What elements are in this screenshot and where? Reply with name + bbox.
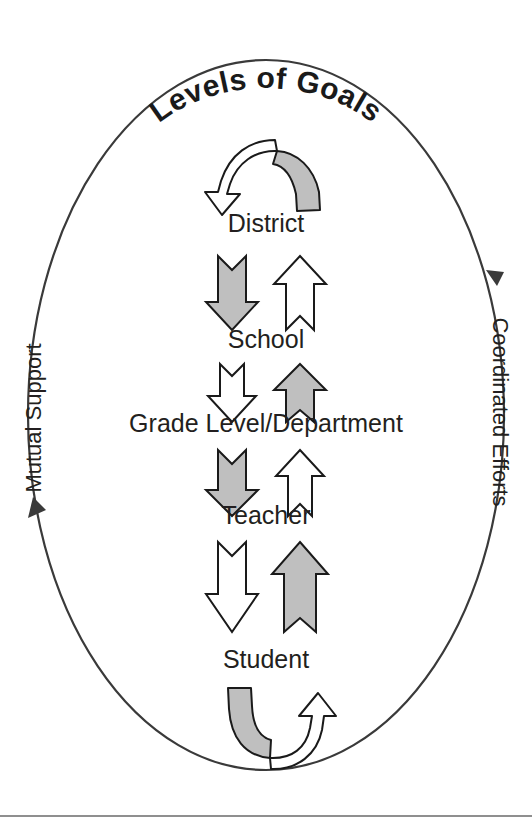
diagram-title-path: Levels of Goals	[143, 61, 388, 128]
left-side-label: Mutual Support	[21, 343, 46, 492]
arrow-pair-district-school	[206, 256, 326, 330]
district-self-loop-icon	[205, 140, 320, 215]
down-arrow-gray	[206, 256, 258, 330]
up-arrow-white	[274, 256, 326, 330]
levels-of-goals-diagram: Mutual Support Coordinated Efforts Level…	[0, 0, 532, 824]
level-label-school: School	[228, 325, 304, 353]
arrow-pair-teacher-student	[206, 542, 328, 632]
diagram-title: Levels of Goals	[143, 61, 388, 128]
figure-canvas: Mutual Support Coordinated Efforts Level…	[0, 0, 532, 824]
coordinated-efforts-arrowhead-icon	[486, 270, 504, 286]
right-side-label: Coordinated Efforts	[488, 317, 513, 506]
level-label-student: Student	[223, 645, 309, 673]
level-label-teacher: Teacher	[222, 501, 311, 529]
student-self-loop-icon	[228, 688, 336, 769]
level-label-grade: Grade Level/Department	[129, 409, 403, 437]
up-arrow-gray	[272, 542, 328, 632]
down-arrow-white	[206, 542, 258, 632]
level-label-district: District	[228, 209, 304, 237]
